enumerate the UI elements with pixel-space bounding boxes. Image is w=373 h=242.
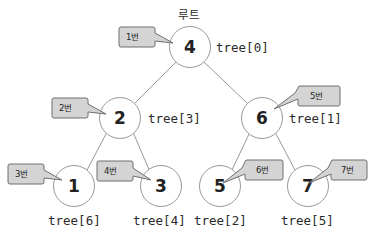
tree-node-3-value: 3	[155, 178, 167, 195]
array-label-tree6: tree[6]	[48, 213, 101, 228]
callout-4[interactable]: 4번	[95, 160, 153, 190]
edge-root-right	[204, 62, 248, 104]
array-label-tree1: tree[1]	[289, 111, 342, 126]
binary-tree-diagram: 루트 4 tree[0] 1번 2 tree[3] 2번 6 tree[1] 5…	[0, 0, 373, 242]
callout-3[interactable]: 3번	[6, 163, 64, 191]
edge-root-left	[134, 62, 176, 104]
array-label-tree2: tree[2]	[194, 213, 247, 228]
tree-node-6-value: 6	[256, 110, 268, 127]
callout-2[interactable]: 2번	[50, 97, 108, 125]
array-label-tree3: tree[3]	[148, 111, 201, 126]
callout-6[interactable]: 6번	[221, 157, 287, 189]
tree-node-4-value: 4	[184, 39, 196, 56]
callout-5[interactable]: 5번	[272, 79, 346, 113]
callout-7[interactable]: 7번	[307, 157, 371, 189]
array-label-tree0: tree[0]	[216, 40, 269, 55]
tree-node-2-value: 2	[114, 110, 126, 127]
array-label-tree4: tree[4]	[133, 213, 186, 228]
tree-node-4[interactable]: 4	[169, 26, 211, 68]
callout-1[interactable]: 1번	[117, 26, 175, 54]
root-caption: 루트	[178, 6, 200, 22]
array-label-tree5: tree[5]	[281, 213, 334, 228]
tree-node-1-value: 1	[68, 178, 80, 195]
